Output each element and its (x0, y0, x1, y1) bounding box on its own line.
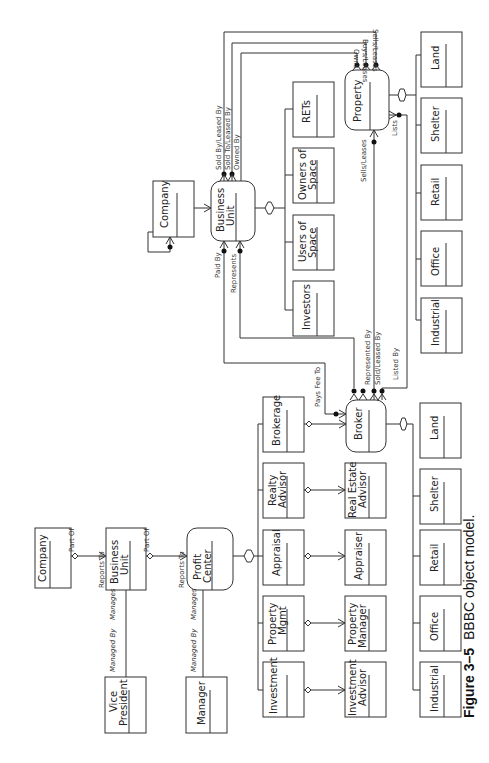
rel-owns: Owns (352, 49, 360, 69)
rel-reports-to: Reports To (98, 552, 106, 588)
bu-subtype-investors[interactable]: Investors (293, 281, 334, 336)
entity-investment[interactable]: Investment (263, 657, 304, 717)
subtype-hexagon (400, 418, 407, 430)
rel-lists: Lists (391, 120, 399, 136)
rel-manages: Manages (109, 588, 117, 620)
rel-owned-by: Owned By (233, 134, 241, 170)
property-subtype-land[interactable]: Land (421, 32, 462, 87)
property-subtype-retail[interactable]: Retail (421, 165, 462, 220)
aggregation-diamond (306, 421, 312, 427)
label: Retail (430, 178, 441, 206)
property-subtype-office[interactable]: Office (421, 231, 462, 286)
entity-property-mgmt[interactable]: Property Mgmt (263, 596, 304, 651)
bu-subtype-owners-of-space[interactable]: Owners of Space (293, 148, 334, 203)
broker-subtype-office[interactable]: Office (420, 596, 461, 651)
figure-caption: Figure 3–5 BBBC object model. (461, 515, 477, 718)
label: RETs (301, 100, 312, 123)
entity-brokerage[interactable]: Brokerage (263, 395, 304, 452)
broker-subtype-retail[interactable]: Retail (420, 530, 461, 585)
bu-subtype-users-of-space[interactable]: Users of Space (293, 215, 334, 270)
label: Office (429, 612, 440, 641)
label: Company (159, 180, 170, 228)
label: Investment (268, 657, 279, 714)
label-line2: Center (202, 548, 213, 583)
label-line2: Manager (357, 603, 368, 648)
label-line2: Space (307, 160, 318, 190)
entity-appraiser[interactable]: Appraiser (345, 530, 386, 585)
rel-sold-leased-by: Sold/Leased By (374, 332, 382, 385)
label: Appraiser (353, 531, 364, 580)
label: Manager (196, 680, 207, 725)
entity-manager[interactable]: Manager (186, 677, 227, 733)
entity-profit-center[interactable]: Profit Center (187, 528, 233, 590)
label: Land (429, 416, 440, 440)
label-line2: Unit (225, 206, 236, 226)
entity-real-estate-advisor[interactable]: Real Estate Advisor (345, 462, 386, 518)
rel-reports-to: Reports To (178, 552, 186, 588)
label: Shelter (429, 475, 440, 512)
label-line2: Advisor (357, 470, 368, 508)
entity-broker[interactable]: Broker (346, 400, 386, 452)
bbbc-object-model-diagram: Figure 3–5 BBBC object model. Company Bu… (0, 0, 489, 763)
label-line2: Space (307, 228, 318, 258)
aggregation-diamond (305, 687, 311, 693)
label: Retail (429, 544, 440, 572)
aggregation-diamond (305, 487, 311, 493)
label: Broker (353, 407, 364, 440)
entity-business-unit-left[interactable]: Business Unit (106, 528, 146, 590)
entity-business-unit-top[interactable]: Business Unit (211, 181, 255, 241)
subtype-hexagon (244, 550, 254, 562)
label: Property (352, 80, 363, 122)
bu-subtype-rets[interactable]: RETs (293, 82, 334, 137)
rel-paid-by: Paid By (214, 252, 222, 278)
label: Brokerage (271, 395, 282, 446)
rel-sold-by-leased-by: Sold By/Leased By (215, 105, 223, 170)
rel-managed-by: Managed By (190, 628, 198, 672)
label: Office (430, 247, 441, 276)
entity-investment-advisor[interactable]: Investment Advisor (345, 659, 386, 717)
broker-subtype-land[interactable]: Land (420, 403, 461, 458)
label: Industrial (429, 665, 440, 712)
broker-subtype-shelter[interactable]: Shelter (420, 469, 461, 524)
subtype-hexagon (265, 202, 274, 214)
property-subtype-shelter[interactable]: Shelter (421, 98, 462, 153)
rel-sold-to-leased-by: Sold To/Leased By (224, 107, 232, 170)
entity-property-manager[interactable]: Property Manager (345, 596, 386, 651)
rel-sells-leases-property: Sells/Leases (360, 139, 368, 182)
rel-pays-fee-to: Pays Fee To (314, 367, 322, 407)
label: Industrial (430, 299, 441, 346)
rel-part-of: Part Of (68, 527, 76, 552)
rel-manages: Manages (190, 588, 198, 620)
entity-company-left[interactable]: Company (35, 528, 71, 588)
broker-subtype-industrial[interactable]: Industrial (420, 662, 461, 717)
aggregation-diamond (305, 553, 311, 559)
entity-realty-advisor[interactable]: Realty Advisor (263, 463, 304, 518)
mandatory-dot (168, 245, 173, 250)
label: Shelter (430, 105, 441, 142)
label-line2: Advisor (357, 668, 368, 706)
entity-appraisal[interactable]: Appraisal (263, 529, 304, 585)
rel-represents: Represents (230, 254, 238, 293)
label: Investors (301, 284, 312, 330)
rel-listed-by: Listed By (392, 348, 400, 380)
rel-sells-leases: Sells/Leases (371, 29, 379, 72)
rel-buys-leases: Buys/Leases (361, 39, 369, 83)
rel-represented-by: Represented By (364, 330, 372, 385)
caption-title: BBBC object model. (461, 515, 477, 640)
property-subtype-industrial[interactable]: Industrial (421, 298, 462, 353)
label: Appraisal (271, 529, 282, 576)
label-line2: Mgmt (277, 606, 288, 635)
label-line2: President (118, 679, 129, 726)
aggregation-diamond (72, 553, 78, 559)
entity-company-top[interactable]: Company (153, 180, 194, 237)
label: Company (37, 534, 48, 582)
label-line2: Advisor (277, 470, 288, 508)
label: Land (430, 46, 441, 70)
label-line2: Unit (119, 555, 130, 575)
rel-part-of: Part Of (143, 527, 151, 552)
entity-vice-president[interactable]: Vice President (105, 677, 146, 733)
aggregation-diamond (305, 620, 311, 626)
subtype-hexagon (398, 89, 406, 101)
rel-managed-by: Managed By (109, 628, 117, 672)
aggregation-diamond (147, 553, 153, 559)
